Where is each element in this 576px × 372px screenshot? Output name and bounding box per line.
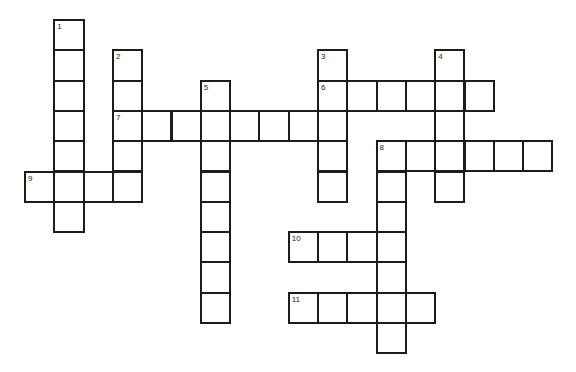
crossword-cell[interactable]: 7 [112,110,143,142]
crossword-cell[interactable] [171,110,202,142]
crossword-cell[interactable] [229,110,260,142]
crossword-cell[interactable] [317,231,348,263]
crossword-cell[interactable] [464,80,495,112]
crossword-grid: 1273645891011 [0,0,576,372]
crossword-cell[interactable]: 3 [317,49,348,81]
crossword-cell[interactable] [376,261,407,293]
crossword-cell[interactable] [200,171,231,203]
crossword-cell[interactable] [258,110,289,142]
crossword-cell[interactable] [200,261,231,293]
crossword-cell[interactable]: 8 [376,140,407,172]
clue-number: 1 [57,22,61,31]
clue-number: 3 [321,52,325,61]
crossword-cell[interactable]: 9 [24,171,55,203]
crossword-cell[interactable] [200,140,231,172]
crossword-cell[interactable] [493,140,524,172]
crossword-cell[interactable] [405,292,436,324]
clue-number: 9 [28,174,32,183]
crossword-cell[interactable] [288,110,319,142]
crossword-cell[interactable] [434,110,465,142]
crossword-cell[interactable] [464,140,495,172]
crossword-cell[interactable] [200,292,231,324]
clue-number: 11 [292,295,300,304]
crossword-cell[interactable] [53,140,84,172]
crossword-cell[interactable] [112,140,143,172]
crossword-cell[interactable] [522,140,553,172]
clue-number: 10 [292,234,301,243]
crossword-cell[interactable] [346,80,377,112]
clue-number: 6 [321,83,325,92]
crossword-cell[interactable]: 6 [317,80,348,112]
crossword-cell[interactable] [434,80,465,112]
crossword-cell[interactable] [200,231,231,263]
crossword-cell[interactable] [53,80,84,112]
crossword-cell[interactable] [200,110,231,142]
crossword-cell[interactable] [434,140,465,172]
crossword-cell[interactable]: 5 [200,80,231,112]
clue-number: 7 [116,113,120,122]
crossword-cell[interactable]: 10 [288,231,319,263]
crossword-cell[interactable] [317,140,348,172]
crossword-cell[interactable] [376,171,407,203]
crossword-cell[interactable] [346,231,377,263]
crossword-cell[interactable] [434,171,465,203]
crossword-cell[interactable] [317,292,348,324]
crossword-cell[interactable] [376,231,407,263]
crossword-cell[interactable] [112,80,143,112]
crossword-cell[interactable] [376,201,407,233]
crossword-cell[interactable] [53,201,84,233]
crossword-cell[interactable]: 4 [434,49,465,81]
crossword-cell[interactable] [53,110,84,142]
crossword-cell[interactable]: 2 [112,49,143,81]
clue-number: 8 [380,143,384,152]
crossword-cell[interactable] [317,110,348,142]
crossword-cell[interactable] [83,171,114,203]
crossword-cell[interactable]: 11 [288,292,319,324]
crossword-cell[interactable] [346,292,377,324]
crossword-cell[interactable] [112,171,143,203]
crossword-cell[interactable] [141,110,172,142]
crossword-cell[interactable] [376,292,407,324]
crossword-cell[interactable] [53,49,84,81]
clue-number: 2 [116,52,120,61]
crossword-cell[interactable] [405,140,436,172]
clue-number: 4 [438,52,442,61]
crossword-cell[interactable]: 1 [53,19,84,51]
clue-number: 5 [204,83,208,92]
crossword-cell[interactable] [53,171,84,203]
crossword-cell[interactable] [317,171,348,203]
crossword-cell[interactable] [200,201,231,233]
crossword-cell[interactable] [405,80,436,112]
crossword-cell[interactable] [376,322,407,354]
crossword-cell[interactable] [376,80,407,112]
